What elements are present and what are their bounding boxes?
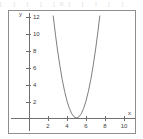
- chart-screenshot: [ ] [ ] [0] [ ] [ ] y x 2 4 6 8 10 12 2 …: [0, 0, 143, 139]
- clipped-top-text-strip: [ ] [ ] [0] [ ] [ ]: [0, 0, 143, 8]
- plot-frame: y x 2 4 6 8 10 12 2 4 6 8 10: [8, 10, 136, 134]
- parabola-curve: [9, 11, 135, 133]
